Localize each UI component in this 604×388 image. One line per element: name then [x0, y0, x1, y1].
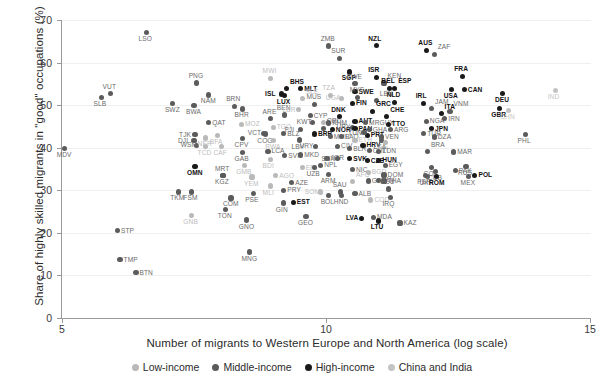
data-point — [347, 156, 352, 161]
x-tick-label: 10 — [306, 323, 346, 335]
data-point-label: EGY — [389, 162, 403, 169]
data-point-label: NZL — [368, 36, 381, 43]
data-point — [374, 75, 379, 80]
data-point-label: VCT — [248, 130, 262, 137]
x-axis-line — [62, 318, 591, 319]
data-point — [115, 228, 120, 233]
data-point — [242, 163, 247, 168]
data-point-label: LTU — [371, 224, 384, 231]
data-point — [432, 52, 437, 57]
data-point-label: GRC — [376, 101, 391, 108]
data-point — [249, 174, 254, 179]
data-point-label: CAF — [213, 150, 227, 157]
data-point-label: IND — [548, 94, 560, 101]
data-point-label: USA — [444, 93, 458, 100]
data-point-label: MYS — [350, 87, 365, 94]
scatter-chart-figure: Share of highly skilled migrants in "goo… — [0, 0, 604, 388]
data-point — [360, 143, 365, 148]
data-point — [273, 173, 278, 178]
data-point — [281, 188, 286, 193]
data-point-label: BEL — [381, 78, 395, 85]
data-point — [268, 76, 273, 81]
data-point-label: NPL — [324, 162, 337, 169]
legend-label: Low-income — [143, 361, 200, 373]
data-point-label: MUS — [306, 94, 321, 101]
data-point — [298, 127, 303, 132]
data-point — [366, 178, 371, 183]
legend-item-high[interactable]: High-income — [305, 361, 375, 373]
data-point-label: ZMB — [321, 36, 335, 43]
data-point-label: ECU — [380, 179, 394, 186]
data-point-label: BRN — [226, 96, 240, 103]
data-point — [421, 131, 426, 136]
data-point-label: ARE — [263, 109, 277, 116]
data-point-label: QAT — [212, 120, 225, 127]
data-point-label: KWT — [297, 119, 312, 126]
data-point — [312, 131, 317, 136]
data-point — [433, 169, 438, 174]
data-point — [424, 119, 429, 124]
data-point-label: PRY — [287, 187, 301, 194]
legend-item-low[interactable]: Low-income — [132, 361, 200, 373]
data-point-label: WSM — [181, 142, 197, 149]
data-point — [352, 138, 357, 143]
data-point — [460, 74, 465, 79]
data-point-label: TZA — [322, 85, 335, 92]
data-point — [133, 270, 138, 275]
data-point — [359, 216, 364, 221]
y-tick-label: 10 — [0, 269, 52, 281]
data-point-label: AUS — [418, 40, 432, 47]
data-point-label: IRN — [448, 116, 460, 123]
data-point — [330, 127, 335, 132]
data-point-label: POL — [478, 172, 492, 179]
data-point-label: BTN — [139, 270, 153, 277]
data-point-label: LSO — [138, 36, 152, 43]
y-tick-label: 60 — [0, 57, 52, 69]
data-point — [347, 146, 352, 151]
data-point-label: URY — [299, 143, 313, 150]
data-point — [284, 86, 289, 91]
data-point-label: AZE — [295, 180, 308, 187]
y-axis-title: Share of highly skilled migrants in "goo… — [33, 6, 45, 306]
data-point-label: FJI — [285, 127, 294, 134]
legend-swatch-icon — [212, 364, 219, 371]
data-point-label: SEN — [322, 156, 336, 163]
data-point — [352, 191, 357, 196]
data-point-label: FIN — [356, 100, 367, 107]
data-point — [361, 130, 366, 135]
data-point — [337, 114, 342, 119]
x-axis-title: Number of migrants to Western Europe and… — [62, 337, 592, 349]
data-point-label: IRL — [416, 93, 427, 100]
data-point-label: TMP — [124, 257, 138, 264]
data-point — [326, 120, 331, 125]
data-point-label: EST — [297, 199, 310, 206]
data-point — [368, 197, 373, 202]
data-point — [451, 149, 456, 154]
data-point — [383, 163, 388, 168]
data-point-label: COM — [223, 201, 239, 208]
data-point-label: FSM — [183, 195, 197, 202]
data-point — [268, 157, 273, 162]
data-point — [350, 179, 355, 184]
legend-swatch-icon — [132, 364, 139, 371]
legend-item-mid[interactable]: Middle-income — [212, 361, 291, 373]
data-point — [117, 257, 122, 262]
data-point-label: DEU — [495, 97, 509, 104]
legend-item-ci[interactable]: China and India — [388, 361, 473, 373]
data-point — [268, 116, 273, 121]
data-point — [298, 86, 303, 91]
data-point-label: ALB — [359, 191, 372, 198]
data-point-label: DZA — [438, 134, 452, 141]
data-point — [194, 80, 199, 85]
data-point-label: IRQ — [382, 201, 394, 208]
data-point-label: VNM — [454, 101, 469, 108]
data-point — [392, 86, 397, 91]
data-point — [206, 120, 211, 125]
data-point — [263, 131, 268, 136]
y-tick-label: 30 — [0, 184, 52, 196]
y-tick-label: 70 — [0, 14, 52, 26]
data-point — [321, 126, 326, 131]
data-point-label: FRA — [454, 66, 468, 73]
data-point — [429, 106, 434, 111]
data-point-label: RWA — [265, 144, 280, 151]
